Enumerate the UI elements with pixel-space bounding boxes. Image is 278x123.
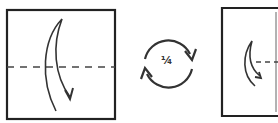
step-1-square xyxy=(7,10,115,119)
step-2-shape xyxy=(222,8,278,116)
fold-arrow-icon xyxy=(245,41,260,86)
rotate-label: ¼ xyxy=(161,54,172,67)
fold-arrow-icon xyxy=(45,19,70,111)
origami-diagram xyxy=(0,0,278,123)
